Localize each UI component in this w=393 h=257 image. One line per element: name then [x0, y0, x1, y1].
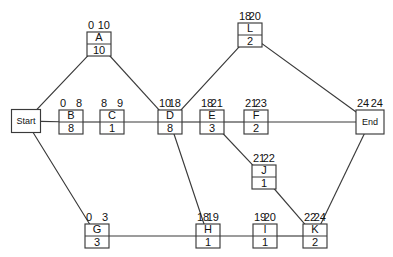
node-B[interactable]: B8 [59, 109, 83, 134]
node-early-start-C: 8 [101, 97, 107, 109]
node-early-finish-F: 23 [255, 97, 267, 109]
node-duration-A: 10 [93, 44, 105, 56]
edge-start-to-G [33, 133, 89, 225]
node-duration-J: 1 [261, 177, 267, 189]
node-label-start: Start [16, 116, 36, 126]
node-early-finish-C: 9 [117, 97, 123, 109]
node-early-finish-B: 8 [76, 97, 82, 109]
edge-E-to-J [223, 134, 252, 165]
node-letter-F: F [253, 109, 260, 121]
node-duration-H: 1 [205, 236, 211, 248]
node-E[interactable]: E3 [200, 109, 224, 134]
edges-layer [33, 44, 364, 236]
node-early-finish-A: 10 [98, 19, 110, 31]
node-duration-L: 2 [247, 35, 253, 47]
node-duration-K: 2 [312, 236, 318, 248]
network-diagram-svg: Start010A1008B889C11018D81821E32123F2182… [0, 0, 393, 257]
node-early-finish-K: 24 [314, 211, 326, 223]
node-letter-D: D [166, 109, 174, 121]
node-letter-B: B [67, 109, 74, 121]
node-early-finish-G: 3 [102, 211, 108, 223]
node-early-finish-end: 24 [371, 97, 383, 109]
node-letter-E: E [208, 109, 215, 121]
node-letter-I: I [263, 223, 266, 235]
node-H[interactable]: H1 [196, 223, 220, 248]
node-early-start-B: 0 [60, 97, 66, 109]
node-duration-D: 8 [167, 122, 173, 134]
node-early-start-A: 0 [88, 19, 94, 31]
node-end[interactable]: End [356, 110, 384, 134]
node-duration-C: 1 [109, 122, 115, 134]
node-early-finish-I: 20 [264, 211, 276, 223]
edge-L-to-end [262, 44, 356, 112]
node-D[interactable]: D8 [158, 109, 182, 134]
node-G[interactable]: G3 [85, 223, 109, 248]
node-L[interactable]: L2 [238, 22, 262, 47]
node-early-finish-L: 20 [249, 10, 261, 22]
node-label-end: End [362, 117, 378, 127]
node-duration-G: 3 [94, 236, 100, 248]
node-duration-F: 2 [253, 122, 259, 134]
node-C[interactable]: C1 [100, 109, 124, 134]
edge-J-to-K [274, 189, 304, 224]
node-duration-E: 3 [209, 122, 215, 134]
node-A[interactable]: A10 [87, 31, 111, 56]
node-early-start-G: 0 [86, 211, 92, 223]
network-diagram-canvas: Start010A1008B889C11018D81821E32123F2182… [0, 0, 393, 257]
node-F[interactable]: F2 [244, 109, 268, 134]
edge-K-to-end [321, 134, 364, 224]
node-J[interactable]: J1 [252, 164, 276, 189]
node-early-finish-H: 19 [207, 211, 219, 223]
node-K[interactable]: K2 [303, 223, 327, 248]
node-early-finish-J: 22 [263, 152, 275, 164]
node-duration-I: 1 [262, 236, 268, 248]
node-letter-K: K [311, 223, 319, 235]
node-letter-G: G [93, 223, 102, 235]
node-start[interactable]: Start [12, 110, 41, 133]
node-letter-L: L [247, 22, 253, 34]
node-duration-B: 8 [68, 122, 74, 134]
node-letter-H: H [204, 223, 212, 235]
nodes-layer: Start010A1008B889C11018D81821E32123F2182… [12, 10, 385, 248]
node-early-finish-D: 18 [169, 97, 181, 109]
node-I[interactable]: I1 [253, 223, 277, 248]
node-early-start-end: 24 [357, 97, 369, 109]
node-letter-C: C [108, 109, 116, 121]
node-letter-J: J [261, 164, 267, 176]
node-letter-A: A [95, 31, 103, 43]
node-early-finish-E: 21 [211, 97, 223, 109]
